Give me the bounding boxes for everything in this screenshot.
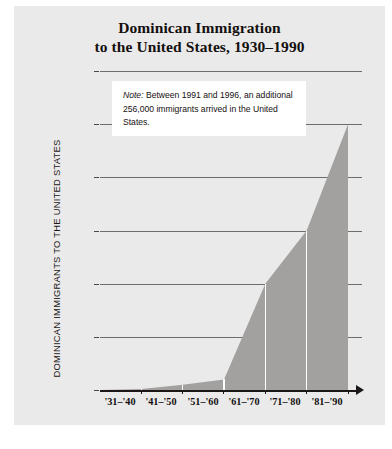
note-body: Between 1991 and 1996, an additional 256… [123,90,293,127]
chart-figure: Dominican Immigration to the United Stat… [0,0,392,449]
x-axis-line [100,390,358,392]
y-tick-150000 [94,231,99,232]
note-text: Note: Between 1991 and 1996, an addition… [123,89,296,130]
series-divider-1980 [306,231,308,391]
chart-title-line-2: to the United States, 1930–1990 [14,37,385,56]
series-divider-1970 [265,284,267,390]
chart-title: Dominican Immigration to the United Stat… [14,18,385,56]
x-tick-1970 [265,390,266,394]
chart-title-line-1: Dominican Immigration [14,18,385,37]
y-tick-100000 [94,284,99,285]
y-tick-300000 [94,71,99,72]
y-tick-250000 [94,124,99,125]
x-tick-1940 [141,390,142,394]
y-axis-title: DOMINICAN IMMIGRANTS TO THE UNITED STATE… [51,124,62,394]
note-box: Note: Between 1991 and 1996, an addition… [112,81,306,136]
y-tick-0 [94,390,99,391]
series-divider-1960 [223,379,225,390]
x-tick-1980 [306,390,307,394]
x-axis-arrow-icon [356,385,364,395]
y-tick-200000 [94,177,99,178]
x-tick-1990 [348,390,349,394]
y-tick-50000 [94,337,99,338]
x-tick-1950 [182,390,183,394]
area-series-shape [100,124,348,390]
note-lead: Note: [123,90,144,100]
x-tick-1960 [223,390,224,394]
x-tick-label-5: '81–'90 [297,396,357,407]
